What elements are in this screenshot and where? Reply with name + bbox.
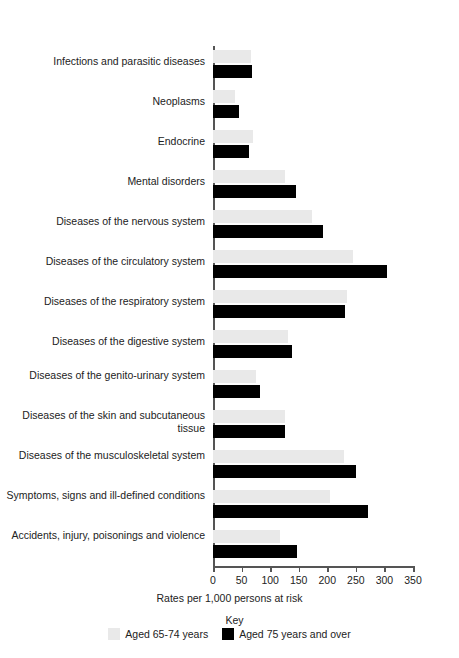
category-label: Diseases of the musculoskeletal system (0, 449, 205, 462)
bar-row (213, 86, 413, 126)
bar-aged-75-over (213, 385, 260, 398)
legend-label-aged-65-74: Aged 65-74 years (125, 628, 208, 640)
category-label: Endocrine (0, 135, 205, 148)
bar-aged-65-74 (213, 490, 330, 503)
bar-aged-75-over (213, 305, 345, 318)
bar-aged-65-74 (213, 450, 344, 463)
bar-aged-75-over (213, 545, 297, 558)
bar-aged-65-74 (213, 330, 288, 343)
x-tick (299, 566, 301, 572)
plot-area: 050100150200250300350 (213, 46, 413, 566)
bar-aged-75-over (213, 185, 296, 198)
x-tick (356, 566, 358, 572)
bar-aged-65-74 (213, 290, 347, 303)
x-tick (242, 566, 244, 572)
bar-aged-65-74 (213, 210, 312, 223)
legend-swatch-light-icon (108, 628, 120, 640)
bar-aged-65-74 (213, 370, 256, 383)
bar-aged-75-over (213, 425, 285, 438)
category-label: Diseases of the respiratory system (0, 295, 205, 308)
x-axis-title: Rates per 1,000 persons at risk (0, 592, 459, 604)
bar-row (213, 366, 413, 406)
bar-row (213, 406, 413, 446)
legend-item-aged-75-over: Aged 75 years and over (222, 628, 351, 640)
category-label: Diseases of the genito-urinary system (0, 369, 205, 382)
legend-label-aged-75-over: Aged 75 years and over (239, 628, 351, 640)
bar-aged-75-over (213, 105, 239, 118)
bar-aged-75-over (213, 505, 368, 518)
bar-aged-75-over (213, 65, 252, 78)
bar-row (213, 166, 413, 206)
bar-aged-65-74 (213, 410, 285, 423)
bar-aged-65-74 (213, 170, 285, 183)
legend-swatch-dark-icon (222, 628, 234, 640)
bar-row (213, 286, 413, 326)
legend-item-aged-65-74: Aged 65-74 years (108, 628, 208, 640)
category-label: Diseases of the nervous system (0, 215, 205, 228)
bar-row (213, 206, 413, 246)
legend-title: Key (0, 614, 459, 626)
bar-row (213, 46, 413, 86)
legend-items: Aged 65-74 years Aged 75 years and over (0, 628, 459, 640)
category-label: Diseases of the skin and subcutaneous ti… (0, 409, 205, 434)
x-tick (270, 566, 272, 572)
bar-row (213, 126, 413, 166)
bar-aged-75-over (213, 265, 387, 278)
bar-aged-65-74 (213, 530, 280, 543)
bar-aged-75-over (213, 225, 323, 238)
category-label: Symptoms, signs and ill-defined conditio… (0, 489, 205, 502)
x-tick (327, 566, 329, 572)
bar-row (213, 486, 413, 526)
x-tick (384, 566, 386, 572)
bar-row (213, 526, 413, 566)
bar-aged-65-74 (213, 130, 253, 143)
x-tick-label: 350 (393, 574, 433, 586)
bar-aged-65-74 (213, 90, 235, 103)
x-tick (213, 566, 215, 572)
category-label: Diseases of the circulatory system (0, 255, 205, 268)
category-label: Mental disorders (0, 175, 205, 188)
category-label: Neoplasms (0, 95, 205, 108)
bar-row (213, 246, 413, 286)
chart-legend: Key Aged 65-74 years Aged 75 years and o… (0, 614, 459, 640)
bar-aged-75-over (213, 345, 292, 358)
bar-aged-75-over (213, 145, 249, 158)
category-label: Accidents, injury, poisonings and violen… (0, 529, 205, 542)
bar-aged-75-over (213, 465, 356, 478)
bar-aged-65-74 (213, 50, 251, 63)
bar-aged-65-74 (213, 250, 353, 263)
category-label: Infections and parasitic diseases (0, 55, 205, 68)
bar-row (213, 326, 413, 366)
x-tick (413, 566, 415, 572)
bar-chart: 050100150200250300350 Infections and par… (0, 0, 459, 658)
category-label: Diseases of the digestive system (0, 335, 205, 348)
bar-row (213, 446, 413, 486)
